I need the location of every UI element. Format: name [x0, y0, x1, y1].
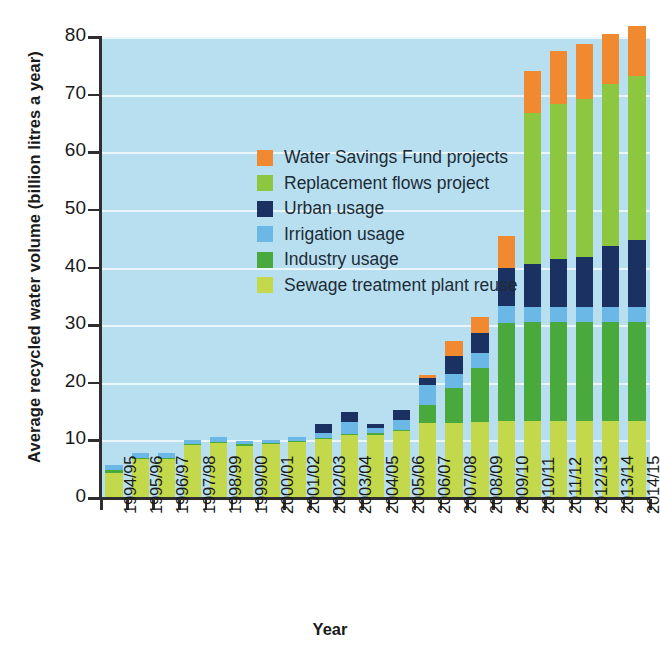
y-axis-tick: [88, 382, 100, 385]
x-axis-tick-label: 2012/13: [592, 456, 611, 514]
bar-segment: [628, 76, 645, 240]
y-axis-tick-label: 50: [48, 197, 86, 219]
x-axis-tick-label: 1994/95: [121, 456, 140, 514]
y-axis-tick: [88, 36, 100, 39]
y-axis-tick: [88, 209, 100, 212]
bar-segment: [576, 307, 593, 321]
x-axis-tick-label: 1996/97: [173, 456, 192, 514]
legend-swatch-icon: [257, 277, 273, 293]
x-axis-tick-label: 2006/07: [435, 456, 454, 514]
bar-segment: [524, 307, 541, 321]
bar-segment: [602, 307, 619, 321]
bar-segment: [550, 104, 567, 259]
x-axis-tick-label: 1997/98: [200, 456, 219, 514]
bar-segment: [471, 317, 488, 333]
y-axis-tick-label: 40: [48, 255, 86, 277]
legend-item-label: Replacement flows project: [284, 173, 489, 194]
x-axis-tick-label: 2010/11: [539, 457, 558, 514]
y-axis-tick-label: 0: [48, 485, 86, 507]
x-axis-tick-label: 2007/08: [461, 456, 480, 514]
plot-area: Water Savings Fund projectsReplacement f…: [101, 37, 650, 498]
legend-item-3[interactable]: Irrigation usage: [257, 222, 517, 248]
legend-swatch-icon: [257, 201, 273, 217]
x-axis-tick-label: 2001/02: [304, 456, 323, 514]
bar-segment: [471, 353, 488, 368]
legend-item-label: Industry usage: [284, 249, 399, 270]
y-axis-tick-label: 10: [48, 427, 86, 449]
x-axis-tick-label: 2002/03: [330, 456, 349, 514]
x-axis-tick-label: 2009/10: [513, 456, 532, 514]
bar-segment: [393, 420, 410, 430]
x-axis-tick-label: 1999/00: [252, 456, 271, 514]
bar-segment: [602, 246, 619, 307]
y-axis-ticks: 01020304050607080: [0, 0, 101, 653]
bar-segment: [628, 240, 645, 307]
bar-segment: [550, 307, 567, 321]
bar-segment: [524, 71, 541, 113]
legend-item-label: Urban usage: [284, 198, 384, 219]
x-axis-tick-label: 1995/96: [147, 456, 166, 514]
gridline: [101, 383, 650, 385]
y-axis-tick: [88, 324, 100, 327]
legend-item-5[interactable]: Sewage treatment plant reuse: [257, 273, 517, 299]
bar-segment: [393, 410, 410, 420]
bar-segment: [445, 341, 462, 356]
bar-2013-14: [602, 34, 619, 498]
y-axis-tick-label: 20: [48, 370, 86, 392]
bar-2012-13: [576, 44, 593, 498]
bar-segment: [550, 51, 567, 105]
x-axis-tick-label: 2014/15: [644, 456, 660, 514]
bar-2011-12: [550, 51, 567, 498]
legend-item-label: Sewage treatment plant reuse: [284, 275, 517, 296]
bar-segment: [602, 322, 619, 421]
x-axis-title: Year: [0, 620, 660, 639]
bar-segment: [524, 322, 541, 421]
y-axis-tick: [88, 94, 100, 97]
bar-segment: [498, 306, 515, 323]
bar-segment: [524, 113, 541, 264]
recycled-water-stacked-bar-chart: Average recycled water volume (billion l…: [0, 0, 660, 653]
bar-segment: [628, 322, 645, 421]
legend-swatch-icon: [257, 150, 273, 166]
bar-2010-11: [524, 71, 541, 498]
legend-item-2[interactable]: Urban usage: [257, 196, 517, 222]
bar-segment: [576, 99, 593, 257]
bar-segment: [445, 374, 462, 388]
gridline: [101, 95, 650, 97]
legend-swatch-icon: [257, 252, 273, 268]
x-axis-tick: [100, 499, 103, 510]
bar-segment: [419, 378, 436, 385]
gridline: [101, 325, 650, 327]
x-axis-tick-label: 2013/14: [618, 456, 637, 514]
y-axis-tick: [88, 267, 100, 270]
bar-segment: [550, 322, 567, 421]
bar-segment: [628, 307, 645, 321]
x-axis-tick-label: 2004/05: [383, 456, 402, 514]
x-axis-tick-label: 2003/04: [356, 456, 375, 514]
x-axis-tick-label: 1998/99: [226, 456, 245, 514]
legend-item-0[interactable]: Water Savings Fund projects: [257, 145, 517, 171]
bar-segment: [576, 257, 593, 307]
legend-item-label: Irrigation usage: [284, 224, 405, 245]
bar-segment: [602, 34, 619, 84]
y-axis-tick: [88, 439, 100, 442]
x-axis-tick-label: 2005/06: [409, 456, 428, 514]
x-axis-tick-label: 2008/09: [487, 456, 506, 514]
y-axis-tick: [88, 151, 100, 154]
bar-segment: [445, 388, 462, 423]
bar-segment: [524, 264, 541, 307]
bar-2014-15: [628, 26, 645, 498]
bar-segment: [315, 424, 332, 433]
bar-segment: [576, 322, 593, 421]
x-axis-tick-label: 2000/01: [278, 456, 297, 514]
legend: Water Savings Fund projectsReplacement f…: [257, 145, 517, 298]
legend-swatch-icon: [257, 175, 273, 191]
legend-item-4[interactable]: Industry usage: [257, 247, 517, 273]
legend-item-1[interactable]: Replacement flows project: [257, 171, 517, 197]
bar-segment: [576, 44, 593, 99]
x-axis-tick-label: 2011/12: [566, 457, 585, 514]
y-axis-tick-label: 80: [48, 24, 86, 46]
gridline: [101, 37, 650, 39]
y-axis-tick-label: 30: [48, 312, 86, 334]
bar-segment: [419, 385, 436, 405]
